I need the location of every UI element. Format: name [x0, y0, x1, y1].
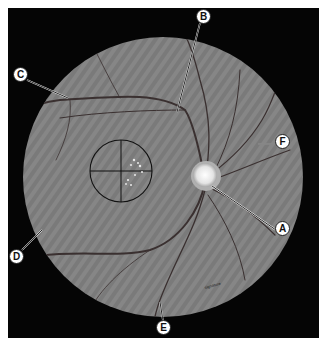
macula	[90, 140, 152, 202]
label-a: A	[275, 221, 290, 236]
retina	[23, 37, 303, 317]
label-d: D	[9, 249, 24, 264]
label-e: E	[156, 320, 171, 335]
label-c: C	[13, 67, 28, 82]
label-f: F	[275, 134, 290, 149]
label-b: B	[196, 9, 211, 24]
optic-disc	[191, 161, 221, 191]
fundus-diagram: signature	[0, 0, 326, 348]
